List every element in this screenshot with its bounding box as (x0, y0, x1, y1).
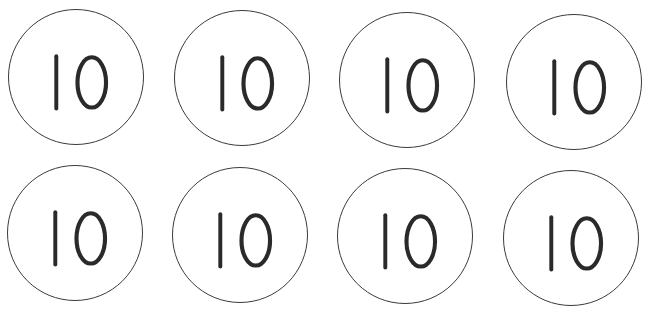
coin-circle-6: 10 (172, 167, 308, 303)
coin-value-glyph (175, 11, 309, 145)
coin-circle-8: 10 (503, 170, 639, 306)
coin-circle-4: 10 (506, 14, 642, 150)
coin-value-glyph (8, 166, 142, 300)
coin-value-glyph (9, 10, 143, 144)
coin-value-glyph (340, 13, 474, 147)
coin-circle-2: 10 (174, 10, 310, 146)
coin-value-glyph (507, 15, 641, 149)
coin-circle-7: 10 (337, 168, 473, 304)
coin-value-glyph (173, 168, 307, 302)
coin-circle-5: 10 (7, 165, 143, 301)
coin-circle-3: 10 (339, 12, 475, 148)
coin-value-glyph (338, 169, 472, 303)
coin-circle-1: 10 (8, 9, 144, 145)
coin-value-glyph (504, 171, 638, 305)
